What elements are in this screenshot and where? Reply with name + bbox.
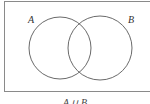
set-a-label: A	[28, 14, 34, 25]
diagram-caption: A ∪ B	[0, 98, 150, 104]
set-a-circle	[29, 17, 91, 79]
set-b-circle	[68, 16, 132, 80]
set-b-label: B	[128, 14, 134, 25]
